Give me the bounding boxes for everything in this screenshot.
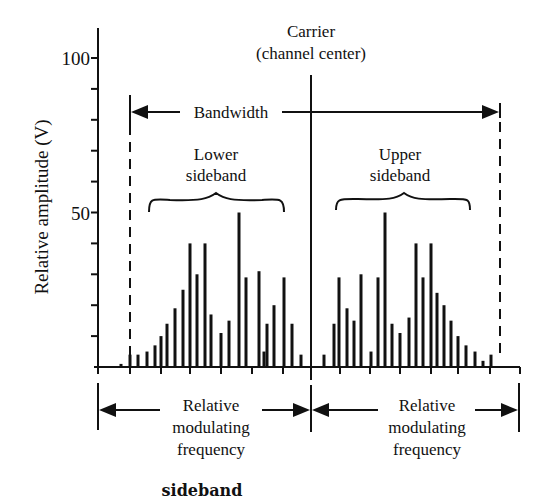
bandwidth-label: Bandwidth	[194, 103, 269, 122]
sideband-bars	[121, 213, 491, 368]
right-freq-label-2: modulating	[388, 418, 466, 437]
ytick-label-50: 50	[71, 203, 90, 224]
y-ticks	[91, 58, 98, 336]
sideband-diagram: 100 50 Relative amplitude (V) Carrier (c…	[0, 0, 551, 501]
left-freq-label-2: modulating	[172, 418, 250, 437]
y-axis-label: Relative amplitude (V)	[31, 119, 53, 294]
upper-sideband-label-2: sideband	[370, 166, 431, 185]
carrier-sublabel: (channel center)	[256, 44, 366, 63]
left-freq-arrow-left-icon	[99, 403, 116, 417]
right-freq-arrow-right-icon	[501, 403, 518, 417]
bandwidth-arrow-right-icon	[482, 105, 499, 119]
upper-sideband-brace-icon	[336, 193, 470, 210]
right-freq-arrow-left-icon	[312, 403, 329, 417]
x-ticks	[98, 367, 520, 374]
right-freq-label-1: Relative	[399, 396, 456, 415]
left-freq-label-1: Relative	[183, 396, 240, 415]
lower-sideband-brace-icon	[149, 193, 284, 212]
bandwidth-arrow-left-icon	[131, 105, 148, 119]
carrier-label: Carrier	[287, 22, 335, 41]
right-freq-label-3: frequency	[393, 440, 461, 459]
lower-sideband-label-2: sideband	[186, 166, 247, 185]
ytick-label-100: 100	[62, 48, 91, 69]
figure-caption: sideband	[162, 481, 243, 500]
left-freq-label-3: frequency	[177, 440, 245, 459]
left-freq-arrow-right-icon	[293, 403, 310, 417]
lower-sideband-label: Lower	[194, 145, 239, 164]
upper-sideband-label: Upper	[379, 145, 422, 164]
